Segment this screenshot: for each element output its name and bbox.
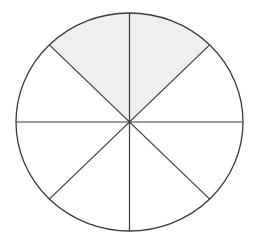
fraction-circle-diagram bbox=[0, 0, 260, 245]
shaded-sector-top-left bbox=[49, 13, 129, 122]
shaded-sector-top-right bbox=[130, 13, 210, 122]
